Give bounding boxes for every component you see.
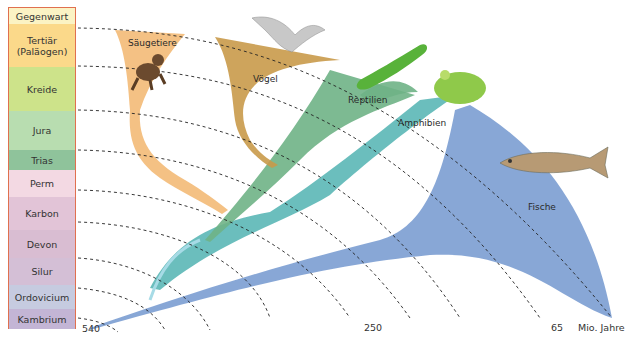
tick-540: 540 (82, 323, 100, 334)
label-reptilien: Reptilien (348, 95, 387, 105)
tick-65: 65 (551, 322, 563, 333)
axis-unit: Mio. Jahre (578, 322, 625, 333)
evolution-diagram: Säugetiere Vögel Reptilien Amphibien Fis… (0, 0, 631, 337)
label-fische: Fische (528, 202, 556, 212)
branch-fische (90, 105, 612, 330)
branch-saeugetiere (115, 30, 228, 214)
frog-icon (434, 70, 486, 104)
label-saeugetiere: Säugetiere (128, 38, 177, 48)
label-amphibien: Amphibien (398, 118, 446, 128)
label-voegel: Vögel (253, 74, 278, 84)
tick-250: 250 (364, 322, 382, 333)
